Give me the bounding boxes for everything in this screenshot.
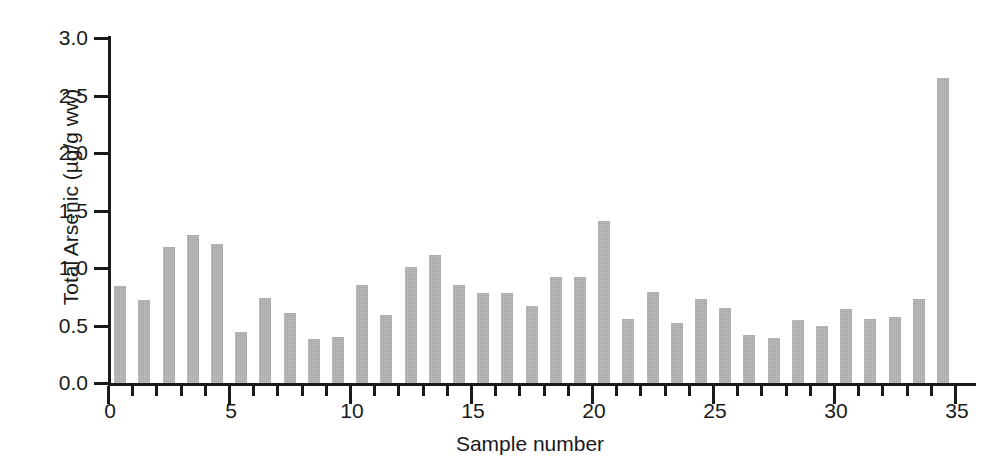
x-tick-label: 5 <box>201 399 261 423</box>
bar <box>163 247 175 383</box>
bar <box>598 221 610 383</box>
x-tick-label: 10 <box>322 399 382 423</box>
x-minor-tick-mark <box>688 386 691 396</box>
bar <box>743 335 755 383</box>
y-tick-mark <box>94 152 108 155</box>
bar <box>816 326 828 384</box>
bar <box>937 78 949 383</box>
y-tick-mark <box>94 37 108 40</box>
bar <box>138 300 150 383</box>
x-minor-tick-mark <box>446 386 449 396</box>
x-minor-tick-mark <box>155 386 158 396</box>
bar <box>308 339 320 383</box>
x-minor-tick-mark <box>301 386 304 396</box>
x-minor-tick-mark <box>567 386 570 396</box>
y-tick-mark <box>94 382 108 385</box>
x-minor-tick-mark <box>809 386 812 396</box>
bar <box>768 338 780 383</box>
bar <box>259 298 271 383</box>
x-minor-tick-mark <box>906 386 909 396</box>
x-minor-tick-mark <box>373 386 376 396</box>
x-minor-tick-mark <box>760 386 763 396</box>
y-tick-mark <box>94 325 108 328</box>
x-minor-tick-mark <box>736 386 739 396</box>
x-minor-tick-mark <box>881 386 884 396</box>
bar <box>913 299 925 383</box>
bar <box>695 299 707 383</box>
x-minor-tick-mark <box>543 386 546 396</box>
y-tick-label: 1.5 <box>8 199 88 223</box>
x-minor-tick-mark <box>639 386 642 396</box>
x-tick-label: 25 <box>685 399 745 423</box>
bar <box>840 309 852 383</box>
bar <box>380 315 392 383</box>
x-tick-label: 30 <box>806 399 866 423</box>
bar <box>622 319 634 383</box>
bar <box>719 308 731 383</box>
x-minor-tick-mark <box>422 386 425 396</box>
bar <box>550 277 562 383</box>
y-tick-mark <box>94 210 108 213</box>
x-minor-tick-mark <box>494 386 497 396</box>
bar <box>429 255 441 383</box>
y-tick-label: 1.0 <box>8 256 88 280</box>
x-minor-tick-mark <box>204 386 207 396</box>
y-tick-mark <box>94 95 108 98</box>
x-axis-title: Sample number <box>100 432 960 456</box>
bar <box>501 293 513 383</box>
x-minor-tick-mark <box>518 386 521 396</box>
x-minor-tick-mark <box>664 386 667 396</box>
bar <box>647 292 659 383</box>
x-minor-tick-mark <box>397 386 400 396</box>
bar <box>332 337 344 383</box>
x-minor-tick-mark <box>930 386 933 396</box>
x-tick-label: 0 <box>80 399 140 423</box>
bar <box>284 313 296 383</box>
x-tick-label: 35 <box>927 399 987 423</box>
x-minor-tick-mark <box>252 386 255 396</box>
x-tick-label: 15 <box>443 399 503 423</box>
bar <box>526 306 538 383</box>
x-minor-tick-mark <box>857 386 860 396</box>
y-tick-label: 0.0 <box>8 371 88 395</box>
bars-container <box>108 38 976 383</box>
bar <box>574 277 586 383</box>
bar <box>671 323 683 383</box>
x-minor-tick-mark <box>325 386 328 396</box>
x-minor-tick-mark <box>615 386 618 396</box>
bar <box>235 332 247 383</box>
x-minor-tick-mark <box>276 386 279 396</box>
bar <box>792 320 804 383</box>
bar <box>114 286 126 383</box>
arsenic-bar-chart: Total Arsenic (µg/g ww) Sample number 3.… <box>0 0 998 474</box>
bar <box>864 319 876 383</box>
y-tick-label: 3.0 <box>8 26 88 50</box>
y-tick-label: 0.5 <box>8 314 88 338</box>
y-tick-label: 2.5 <box>8 84 88 108</box>
bar <box>405 267 417 383</box>
x-minor-tick-mark <box>131 386 134 396</box>
x-minor-tick-mark <box>180 386 183 396</box>
bar <box>477 293 489 383</box>
x-tick-label: 20 <box>564 399 624 423</box>
bar <box>453 285 465 383</box>
bar <box>211 244 223 383</box>
bar <box>889 317 901 383</box>
bar <box>187 235 199 383</box>
x-minor-tick-mark <box>785 386 788 396</box>
bar <box>356 285 368 383</box>
y-tick-mark <box>94 267 108 270</box>
y-tick-label: 2.0 <box>8 141 88 165</box>
